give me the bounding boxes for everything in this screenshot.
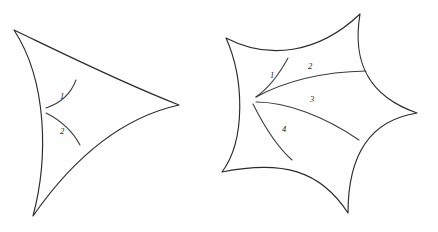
figure-canvas: 1 2 1 2 3 4 <box>0 0 438 232</box>
figure-background <box>0 0 438 232</box>
right-panel-arc-label-1: 1 <box>270 70 274 80</box>
right-panel-arc-label-3: 3 <box>309 94 314 104</box>
left-panel-arc-label-1: 1 <box>60 91 64 101</box>
